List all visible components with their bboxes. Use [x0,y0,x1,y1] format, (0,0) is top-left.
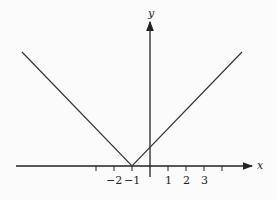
tick-label-2: 2 [183,174,190,187]
x-ticks [96,166,222,171]
tick-label-3: 3 [201,174,208,187]
tick-label-1: 1 [165,174,172,187]
x-axis-label: x [257,159,264,172]
y-axis-label: y [147,7,155,20]
graph-figure: −2 −1 1 2 3 x y [0,0,277,200]
tick-label-m2: −2 [106,174,122,187]
tick-label-m1: −1 [124,174,140,187]
graph-canvas: −2 −1 1 2 3 x y [0,0,277,200]
abs-value-curve [22,52,242,166]
